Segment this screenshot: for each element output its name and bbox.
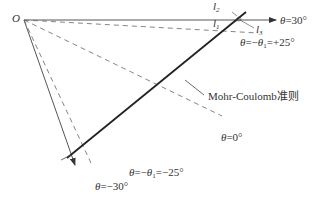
criterion-label: Mohr-Coulomb准则 [208,90,299,102]
origin-label: O [12,12,20,24]
l2-label: l2 [213,0,220,14]
theta-30-label: θ=30° [280,14,307,26]
theta-0-label: θ=0° [221,131,243,143]
theta-neg30-label: θ=−30° [95,180,128,192]
criterion-leader [185,80,204,95]
l3-label: l3 [256,23,263,37]
l1-label: l1 [213,17,220,31]
l3-leader [240,20,254,28]
l2-leader [232,12,237,16]
mohr-coulomb-line [67,12,246,158]
mohr-coulomb-diagram: O Mohr-Coulomb准则 l2 l1 l3 θ=30° θ=−θ1=+2… [0,0,315,206]
dashed-theta-0 [24,20,222,116]
theta-pos25-label: θ=−θ1=+25° [240,36,295,50]
theta-neg25-label: θ=−θ1=−25° [129,166,184,180]
dashed-theta-neg25 [24,20,91,163]
bracket-mark [61,155,71,160]
axis-theta-neg30 [24,20,75,165]
